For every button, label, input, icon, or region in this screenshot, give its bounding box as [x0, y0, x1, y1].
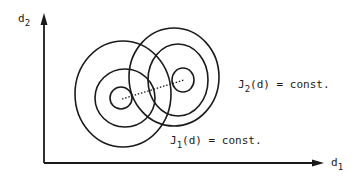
j1-contours	[75, 41, 171, 147]
x-axis-arrowhead-icon	[312, 160, 324, 167]
j2-contours	[129, 28, 219, 126]
j1-contour-inner	[110, 87, 132, 109]
j2-label: J2(d) = const.	[238, 78, 330, 94]
j1-contour-middle	[95, 69, 155, 127]
x-axis-label: d1	[331, 156, 343, 172]
j1-contour-outer	[75, 41, 171, 147]
j2-contour-middle	[148, 44, 208, 116]
contour-diagram: d2 d1 J2(d) = const. J1(d) = const.	[0, 0, 360, 182]
j1-label: J1(d) = const.	[170, 134, 262, 150]
y-axis-label: d2	[18, 12, 30, 28]
y-axis-arrowhead-icon	[41, 13, 48, 25]
j2-contour-outer	[129, 28, 219, 126]
